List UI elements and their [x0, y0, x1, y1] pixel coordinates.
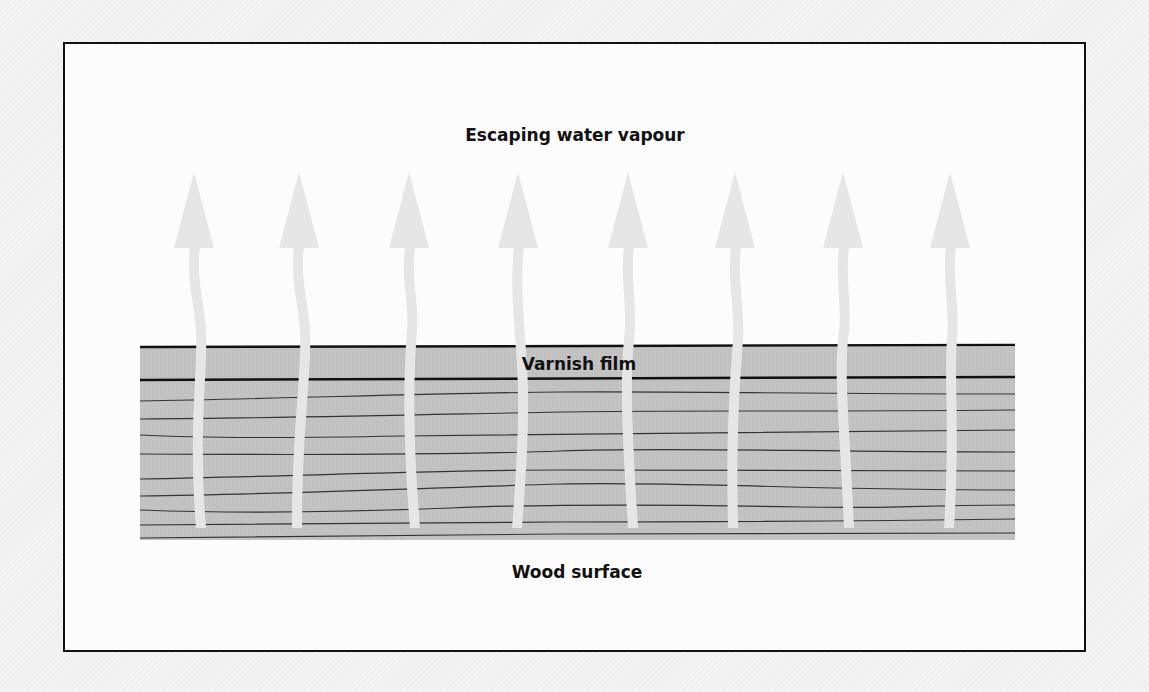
wood-layer	[140, 378, 1015, 540]
varnish-top-line	[140, 345, 1015, 347]
wood-surface-label: Wood surface	[512, 562, 643, 582]
escaping-water-vapour-label: Escaping water vapour	[465, 125, 685, 145]
varnish-film-label: Varnish film	[522, 354, 636, 374]
diagram-canvas	[0, 0, 1149, 692]
